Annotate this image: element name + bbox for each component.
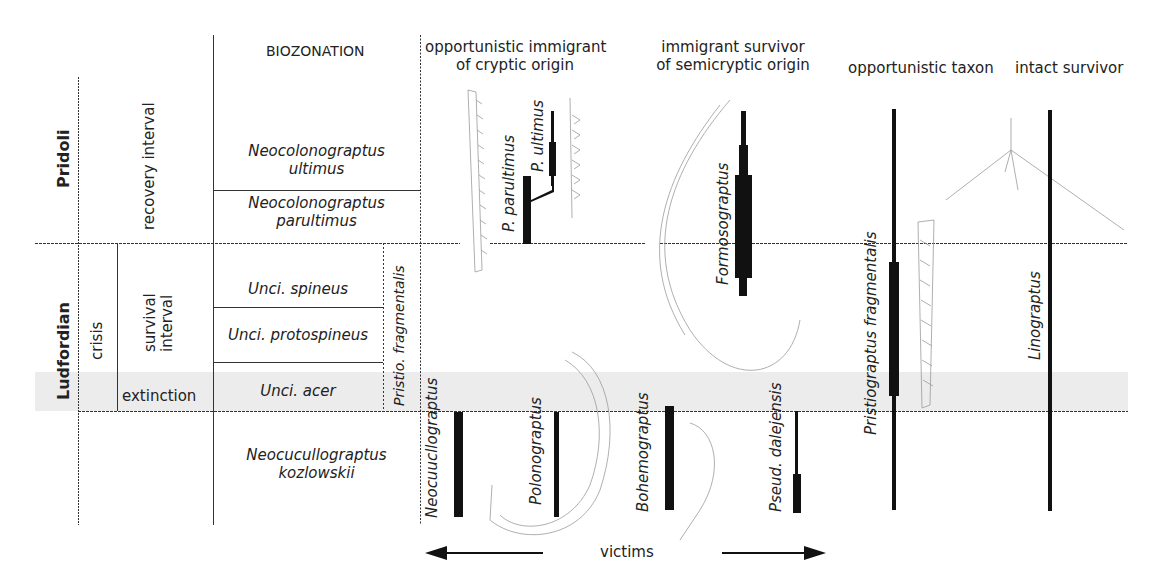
taxon-linograptus: Linograptus [1026, 271, 1044, 360]
category-immigrant-survivor: immigrant survivor of semicryptic origin [648, 38, 818, 74]
stage-pridoli: Pridoli [55, 129, 73, 188]
taxon-bohemograptus: Bohemograptus [634, 392, 652, 512]
biozone-parultimus: Neocolonograptus parultimus [213, 194, 420, 230]
biozone-acer: Unci. acer [213, 382, 383, 400]
victims-label: victims [600, 543, 654, 561]
biozone-ultimus: Neocolonograptus ultimus [213, 142, 420, 178]
taxon-polonograptus: Polonograptus [527, 397, 545, 505]
biozone-line1: Neocolonograptus [213, 194, 420, 212]
biozone-protospineus: Unci. protospineus [213, 326, 383, 344]
category-intact-survivor: intact survivor [1015, 59, 1123, 77]
taxon-formosograptus: Formosograptus [714, 163, 732, 285]
survival-line2: interval [159, 293, 176, 352]
taxon-p-parultimus: P. parultimus [500, 135, 518, 232]
range-bars [425, 109, 1052, 560]
category-opportunistic-immigrant: opportunistic immigrant of cryptic origi… [425, 38, 605, 74]
biozonation-header: BIOZONATION [266, 42, 365, 60]
biozone-spineus: Unci. spineus [213, 280, 383, 298]
category-label-line1: immigrant survivor [648, 38, 818, 56]
biozone-line2: ultimus [213, 160, 420, 178]
category-label-line2: of cryptic origin [425, 56, 605, 74]
taxon-pseud-dalejensis: Pseud. dalejensis [767, 383, 785, 512]
taxon-p-ultimus: P. ultimus [529, 100, 547, 172]
biozone-kozlowskii: Neocucullograptus kozlowskii [213, 446, 420, 482]
interval-extinction: extinction [122, 387, 196, 405]
interval-crisis: crisis [88, 322, 106, 360]
taxon-pristiograptus-fragmentalis: Pristiograptus fragmentalis [862, 231, 880, 435]
category-label-line1: opportunistic immigrant [425, 38, 605, 56]
biozone-line2: parultimus [213, 212, 420, 230]
interval-recovery: recovery interval [140, 102, 158, 230]
category-opportunistic-taxon: opportunistic taxon [848, 59, 994, 77]
stage-ludfordian: Ludfordian [55, 302, 73, 400]
biozone-pristio-fragmentalis: Pristio. fragmentalis [390, 265, 408, 406]
biozone-line1: Neocolonograptus [213, 142, 420, 160]
taxon-neocucullograptus: Neocuucllograptus [423, 378, 441, 518]
biozone-line1: Neocucullograptus [213, 446, 420, 464]
biozone-line2: kozlowskii [213, 464, 420, 482]
interval-survival: survival interval [142, 293, 176, 352]
survival-line1: survival [142, 293, 159, 352]
category-label-line2: of semicryptic origin [648, 56, 818, 74]
